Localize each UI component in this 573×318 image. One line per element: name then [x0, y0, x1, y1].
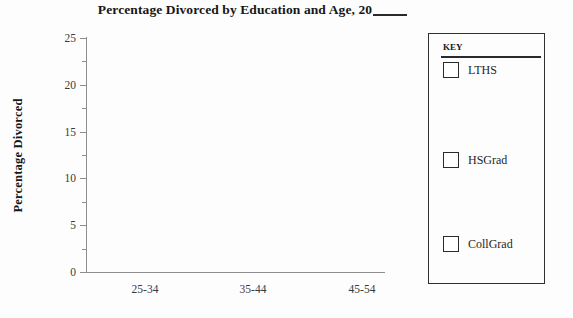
- legend-swatch-icon-lths: [443, 62, 459, 78]
- y-axis-title: Percentage Divorced: [11, 76, 26, 236]
- chart-title-text: Percentage Divorced by Education and Age…: [98, 2, 372, 17]
- x-tick-label-45-54: 45-54: [317, 283, 407, 295]
- x-tick-label-35-44: 35-44: [208, 283, 298, 295]
- y-tick-0: [80, 272, 87, 273]
- x-tick-label-25-34: 25-34: [100, 283, 190, 295]
- y-tick-label-5: 5: [48, 220, 76, 231]
- y-tick-minor-2-5: [82, 249, 87, 250]
- y-tick-20: [80, 85, 87, 86]
- y-tick-minor-7-5: [82, 202, 87, 203]
- x-axis-line: [86, 272, 385, 273]
- y-tick-label-0: 0: [48, 267, 76, 278]
- legend-title-underline: [441, 56, 541, 58]
- y-tick-25: [80, 38, 87, 39]
- legend-key-box: Key LTHS HSGrad CollGrad: [428, 33, 545, 284]
- y-tick-minor-17-5: [82, 108, 87, 109]
- y-tick-15: [80, 132, 87, 133]
- legend-item-collgrad[interactable]: CollGrad: [443, 235, 513, 253]
- legend-swatch-icon-collgrad: [443, 236, 459, 252]
- y-axis-tick-labels: 25 20 15 10 5 0: [48, 0, 76, 318]
- legend-item-lths[interactable]: LTHS: [443, 61, 497, 79]
- y-tick-label-10: 10: [48, 173, 76, 184]
- plot-area: [87, 38, 385, 272]
- y-tick-10: [80, 178, 87, 179]
- y-tick-label-20: 20: [48, 80, 76, 91]
- chart-page: Percentage Divorced by Education and Age…: [0, 0, 573, 318]
- y-tick-label-25: 25: [48, 33, 76, 44]
- y-tick-5: [80, 225, 87, 226]
- legend-label-collgrad: CollGrad: [468, 237, 513, 252]
- legend-item-hsgrad[interactable]: HSGrad: [443, 151, 507, 169]
- y-tick-minor-12-5: [82, 155, 87, 156]
- legend-swatch-icon-hsgrad: [443, 152, 459, 168]
- year-blank-underline: [373, 2, 407, 16]
- y-tick-label-15: 15: [48, 127, 76, 138]
- legend-label-hsgrad: HSGrad: [468, 153, 507, 168]
- legend-title: Key: [443, 38, 463, 54]
- chart-title: Percentage Divorced by Education and Age…: [80, 2, 425, 18]
- y-tick-minor-22-5: [82, 61, 87, 62]
- legend-label-lths: LTHS: [468, 63, 497, 78]
